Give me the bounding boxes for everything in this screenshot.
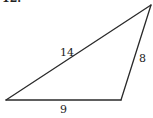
side-14-line (6, 5, 151, 100)
side-8-label: 8 (139, 52, 146, 65)
side-14-label: 14 (60, 46, 74, 59)
problem-number: 12. (2, 0, 21, 5)
side-8-line (121, 5, 151, 100)
triangle-diagram: 12. 14 8 9 (0, 0, 153, 118)
side-9-label: 9 (60, 103, 67, 116)
